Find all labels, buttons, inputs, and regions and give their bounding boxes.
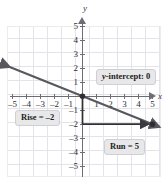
graph-figure: y x –5–4–3–2–112345–5–4–3–2–112345 y-int… [0, 0, 167, 186]
x-tick-label: –4 [20, 99, 34, 109]
y-tick-label: –1 [64, 105, 78, 115]
x-tick-label: –2 [48, 99, 62, 109]
x-tick [124, 94, 125, 99]
x-tick [138, 94, 139, 99]
y-tick [80, 26, 85, 27]
x-tick [110, 94, 111, 99]
rise-callout: Rise = –2 [15, 110, 60, 126]
y-tick [80, 124, 85, 125]
x-tick-label: 4 [132, 99, 146, 109]
x-tick [40, 94, 41, 99]
y-tick [80, 152, 85, 153]
x-tick [26, 94, 27, 99]
x-tick-label: 3 [118, 99, 132, 109]
y-tick [80, 166, 85, 167]
x-tick [54, 94, 55, 99]
x-tick [12, 94, 13, 99]
y-tick [80, 54, 85, 55]
y-tick-label: 2 [64, 63, 78, 73]
x-tick-label: 1 [90, 99, 104, 109]
y-axis-label: y [83, 3, 87, 13]
x-tick-label: –3 [34, 99, 48, 109]
y-tick [80, 82, 85, 83]
x-tick [68, 94, 69, 99]
y-tick [80, 40, 85, 41]
y-tick [80, 110, 85, 111]
x-tick-label: 5 [146, 99, 160, 109]
y-tick-label: –4 [64, 147, 78, 157]
y-tick-label: 3 [64, 49, 78, 59]
y-axis-arrow-icon [78, 17, 86, 24]
y-intercept-callout-text: -intercept: 0 [106, 71, 150, 81]
y-tick [80, 138, 85, 139]
y-tick-label: –5 [64, 161, 78, 171]
y-intercept-callout: y-intercept: 0 [96, 69, 156, 85]
y-tick-label: –2 [64, 119, 78, 129]
x-tick [96, 94, 97, 99]
run-callout: Run = 5 [104, 139, 145, 155]
y-tick-label: –3 [64, 133, 78, 143]
y-tick-label: 5 [64, 21, 78, 31]
y-axis [82, 22, 83, 177]
y-tick-label: 4 [64, 35, 78, 45]
x-axis [10, 96, 151, 97]
y-tick [80, 68, 85, 69]
x-tick [152, 94, 153, 99]
x-tick-label: –5 [6, 99, 20, 109]
x-tick-label: 2 [104, 99, 118, 109]
y-tick-label: 1 [64, 77, 78, 87]
